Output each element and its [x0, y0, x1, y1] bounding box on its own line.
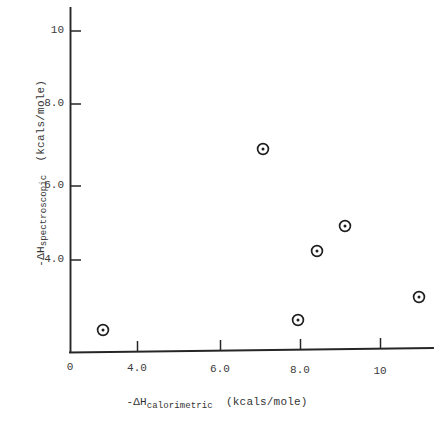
- y-tick-label-10: 10: [30, 24, 64, 36]
- x-axis-title-units: (kcals/mole): [226, 396, 308, 408]
- data-point: [293, 315, 304, 326]
- x-tick-label-6: 6.0: [203, 363, 237, 375]
- plot-canvas: [0, 0, 434, 423]
- y-axis-title-units: (kcals/mole): [35, 80, 47, 162]
- data-point: [340, 221, 351, 232]
- y-axis-title-subscript: spectroscopic: [39, 175, 49, 247]
- x-axis-title-subscript: calorimetric: [147, 401, 213, 411]
- y-axis-title-prefix: -ΔH: [35, 246, 47, 266]
- x-axis-title-prefix: -ΔH: [126, 396, 146, 408]
- data-point: [414, 292, 425, 303]
- x-tick-label-8: 8.0: [283, 364, 317, 376]
- y-axis-title: -ΔHspectroscopic (kcals/mole): [35, 43, 50, 303]
- data-markers: [98, 144, 425, 336]
- x-axis-title: -ΔHcalorimetric (kcals/mole): [0, 396, 434, 411]
- x-tick-label-0: 0: [53, 361, 87, 373]
- y-axis-ticks: [71, 31, 81, 260]
- data-point: [98, 325, 109, 336]
- x-axis-line: [70, 348, 433, 353]
- x-tick-label-4: 4.0: [120, 362, 154, 374]
- data-point: [258, 144, 269, 155]
- data-point: [312, 246, 323, 257]
- x-tick-label-10: 10: [363, 365, 397, 377]
- scatter-plot-figure: 10 8.0 6.0 4.0 0 4.0 6.0 8.0 10 -ΔHspect…: [0, 0, 434, 423]
